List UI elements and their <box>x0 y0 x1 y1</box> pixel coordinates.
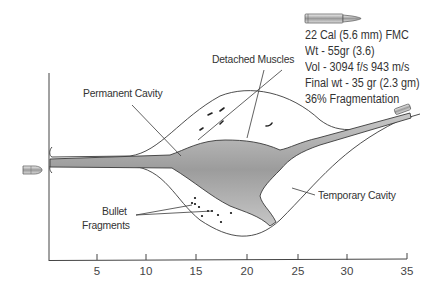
x-tick-35: 35 <box>401 265 414 277</box>
spec-fragmentation: 36% Fragmentation <box>305 91 420 107</box>
label-temporary-cavity: Temporary Cavity <box>318 189 396 201</box>
label-permanent-cavity: Permanent Cavity <box>83 87 162 99</box>
x-tick-25: 25 <box>292 265 305 277</box>
spec-caliber: 22 Cal (5.6 mm) FMC <box>305 27 420 43</box>
cartridge-icon <box>305 14 361 23</box>
label-fragments: Fragments <box>82 219 130 231</box>
label-bullet: Bullet <box>102 205 127 217</box>
x-tick-15: 15 <box>190 265 203 277</box>
x-tick-10: 10 <box>140 265 153 277</box>
spec-weight: Wt - 55gr (3.6) <box>305 43 420 59</box>
label-detached-muscles: Detached Muscles <box>212 53 294 65</box>
entering-bullet-icon <box>23 166 42 174</box>
ammunition-specs: 22 Cal (5.6 mm) FMC Wt - 55gr (3.6) Vol … <box>305 27 420 107</box>
detached-muscle-fragments <box>200 108 272 130</box>
x-tick-5: 5 <box>94 265 100 277</box>
x-tick-20: 20 <box>241 265 254 277</box>
spec-velocity: Vol - 3094 f/s 943 m/s <box>305 59 420 75</box>
x-tick-30: 30 <box>341 265 354 277</box>
spec-final-weight: Final wt - 35 gr (2.3 gm) <box>305 75 420 91</box>
